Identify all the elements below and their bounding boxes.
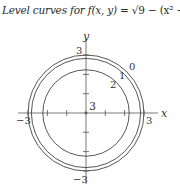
level-label-1: 1 — [119, 70, 125, 81]
origin-point — [85, 112, 88, 115]
level-label-0: 0 — [129, 61, 135, 72]
y-tick-bottom: −3 — [73, 174, 88, 185]
x-tick-left: −3 — [16, 115, 31, 126]
y-axis-label: y — [82, 30, 90, 43]
x-tick-right: 3 — [146, 115, 152, 126]
level-label-2: 2 — [110, 79, 116, 90]
y-tick-top: 3 — [76, 45, 82, 56]
axes — [18, 40, 158, 184]
level-curve-plot: y x 3 −3 −3 3 3 0 1 2 — [0, 0, 180, 189]
origin-label: 3 — [89, 100, 96, 113]
x-axis-label: x — [161, 107, 168, 120]
